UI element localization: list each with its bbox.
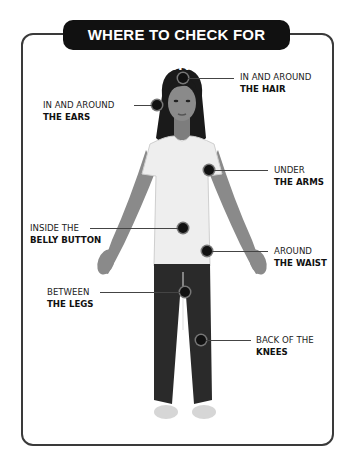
diagram-title: WHERE TO CHECK FOR TICKS xyxy=(63,20,290,50)
marker-knees xyxy=(196,335,206,345)
marker-belly-button xyxy=(178,223,188,233)
marker-arms xyxy=(204,165,214,175)
label-belly-button-line2: BELLY BUTTON xyxy=(30,234,101,246)
marker-ears xyxy=(152,100,162,110)
label-arms-line2: THE ARMS xyxy=(274,176,324,188)
label-arms: UNDER THE ARMS xyxy=(274,164,324,188)
label-ears-line2: THE EARS xyxy=(43,111,114,123)
leader-line-ears xyxy=(134,105,152,106)
label-legs: BETWEEN THE LEGS xyxy=(47,286,94,310)
label-waist: AROUND THE WAIST xyxy=(274,245,327,269)
leader-line-hair xyxy=(188,78,234,79)
leader-line-arms xyxy=(214,170,268,171)
label-hair: IN AND AROUND THE HAIR xyxy=(240,71,311,95)
label-knees-line1: BACK OF THE xyxy=(256,334,314,346)
label-hair-line1: IN AND AROUND xyxy=(240,71,311,83)
leader-line-knees xyxy=(206,340,251,341)
label-belly-button-line1: INSIDE THE xyxy=(30,222,101,234)
label-arms-line1: UNDER xyxy=(274,164,324,176)
leader-line-waist xyxy=(212,251,268,252)
leader-line-legs xyxy=(100,292,180,293)
leader-line-belly-button xyxy=(90,228,178,229)
marker-hair xyxy=(178,73,188,83)
label-knees-line2: KNEES xyxy=(256,346,314,358)
label-hair-line2: THE HAIR xyxy=(240,83,311,95)
label-ears: IN AND AROUND THE EARS xyxy=(43,99,114,123)
label-waist-line2: THE WAIST xyxy=(274,257,327,269)
marker-legs xyxy=(180,287,190,297)
label-belly-button: INSIDE THE BELLY BUTTON xyxy=(30,222,101,246)
label-waist-line1: AROUND xyxy=(274,245,327,257)
label-knees: BACK OF THE KNEES xyxy=(256,334,314,358)
label-legs-line2: THE LEGS xyxy=(47,298,94,310)
label-legs-line1: BETWEEN xyxy=(47,286,94,298)
label-ears-line1: IN AND AROUND xyxy=(43,99,114,111)
marker-waist xyxy=(202,246,212,256)
